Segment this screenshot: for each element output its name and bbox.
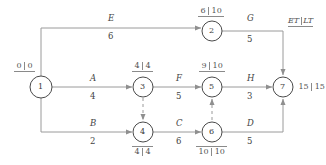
activity-label-H: H	[247, 74, 254, 83]
activity-label-E: E	[108, 14, 114, 23]
node-label-6[interactable]: 6	[209, 128, 214, 136]
activity-duration-F: 5	[176, 92, 181, 101]
node-1-lt: 0	[25, 62, 35, 70]
activity-duration-A: 4	[90, 92, 95, 101]
node-label-1[interactable]: 1	[38, 83, 43, 91]
node-4-et: 4	[132, 148, 142, 156]
node-6-lt: 10	[212, 148, 227, 156]
legend-separator	[301, 17, 302, 25]
activity-label-D: D	[247, 119, 254, 128]
activity-duration-H: 3	[247, 92, 252, 101]
node-7-et: 15	[296, 83, 311, 91]
node-label-7[interactable]: 7	[280, 83, 285, 91]
activity-duration-D: 5	[247, 137, 252, 146]
node-label-3[interactable]: 3	[140, 83, 145, 91]
node-1-et: 0	[14, 62, 24, 70]
node-label-2[interactable]: 2	[209, 27, 214, 35]
diagram-canvas	[0, 0, 326, 165]
network-diagram: 1 2 3 4 5 6 7 0 0 6 10 4 4 4 4 9 10 10 1…	[0, 0, 326, 165]
node-label-5[interactable]: 5	[209, 83, 214, 91]
node-7-lt: 15	[312, 83, 326, 91]
node-times-4: 4 4	[132, 146, 153, 156]
node-3-et: 4	[132, 62, 142, 70]
activity-label-G: G	[247, 14, 254, 23]
node-times-5: 9 10	[199, 62, 225, 72]
node-2-et: 6	[198, 7, 208, 15]
node-times-2: 6 10	[198, 7, 224, 17]
node-times-3: 4 4	[132, 62, 153, 72]
activity-duration-C: 6	[176, 137, 181, 146]
node-6-et: 10	[196, 148, 211, 156]
activity-label-C: C	[176, 119, 183, 128]
node-times-6: 10 10	[196, 146, 227, 156]
activity-label-A: A	[90, 74, 96, 83]
activity-duration-G: 5	[247, 35, 252, 44]
node-2-lt: 10	[209, 7, 224, 15]
node-4-lt: 4	[143, 148, 153, 156]
node-label-4[interactable]: 4	[140, 128, 145, 136]
legend-et-lt: ET LT	[288, 17, 313, 27]
activity-label-F: F	[176, 74, 182, 83]
legend-et-label: ET	[288, 17, 299, 25]
activity-label-B: B	[90, 119, 96, 128]
activity-duration-B: 2	[90, 137, 95, 146]
node-5-et: 9	[199, 62, 209, 70]
activity-duration-E: 6	[108, 32, 113, 41]
node-3-lt: 4	[143, 62, 153, 70]
node-times-1: 0 0	[14, 62, 35, 72]
node-5-lt: 10	[210, 62, 225, 70]
legend-lt-label: LT	[303, 17, 313, 25]
node-times-7: 15 15	[296, 83, 326, 91]
